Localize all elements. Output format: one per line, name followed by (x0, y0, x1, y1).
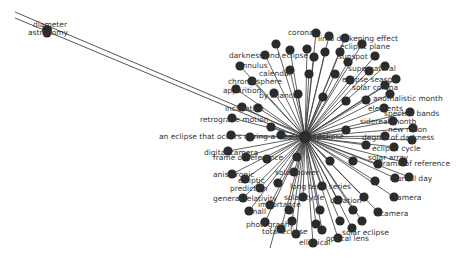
node-label: frame of reference (380, 159, 450, 168)
node-label: inclination (225, 104, 264, 113)
node-label: frame of reference (213, 153, 283, 162)
node-label: solar power (275, 168, 320, 177)
graph-node[interactable] (370, 176, 379, 185)
graph-node[interactable] (271, 39, 280, 48)
node-label: diurnal day (390, 174, 433, 183)
graph-node[interactable] (304, 69, 313, 78)
node-label: anomalistic month (373, 94, 443, 103)
node-label: supernatural (348, 64, 396, 73)
node-label: camera (380, 209, 408, 218)
node-label: camera (393, 193, 421, 202)
graph-node[interactable] (330, 69, 339, 78)
hub-label: solar eclipse (283, 133, 330, 142)
node-label: retrograde motion (200, 115, 269, 124)
node-label: total eclipse (262, 227, 308, 236)
graph-node[interactable] (292, 152, 301, 161)
node-label: apparition (223, 86, 261, 95)
graph-node[interactable] (318, 92, 327, 101)
graph-node[interactable] (273, 178, 282, 187)
graph-node[interactable] (370, 51, 379, 60)
node-label: ecliptic cycle (372, 144, 421, 153)
graph-node[interactable] (335, 216, 344, 225)
node-label: long term series (290, 182, 351, 191)
graph-node[interactable] (315, 205, 324, 214)
node-label: by chance (259, 91, 298, 100)
graph-node[interactable] (325, 156, 334, 165)
node-label: darkness and eclipse (229, 51, 308, 60)
node-label: solar corona (352, 83, 398, 92)
graph-node[interactable] (309, 52, 318, 61)
graph-node[interactable] (348, 156, 357, 165)
network-graph: diameterastronomycoronalimb darkening ef… (0, 0, 466, 263)
node-label: sunspot (338, 52, 368, 61)
node-label: duration (330, 196, 362, 205)
node-labels: diameterastronomycoronalimb darkening ef… (28, 20, 450, 247)
graph-node[interactable] (357, 216, 366, 225)
node-label: corona (288, 28, 314, 37)
graph-node[interactable] (320, 47, 329, 56)
node-label: optical lens (326, 234, 369, 243)
node-label: chromosphere (228, 77, 282, 86)
node-label: ecliptic plane (340, 42, 390, 51)
graph-node[interactable] (341, 96, 350, 105)
node-label: small (246, 207, 266, 216)
node-label: prediction (230, 184, 268, 193)
graph-node[interactable] (348, 205, 357, 214)
node-label: degree of darkness (362, 133, 434, 142)
node-label: astronomy (28, 28, 69, 37)
